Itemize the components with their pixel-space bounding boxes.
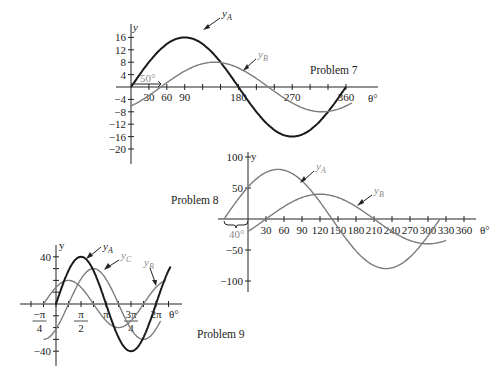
p7-x-tick-label: 360 — [338, 91, 355, 103]
p8-x-tick-label: 30 — [261, 224, 273, 236]
chart-problem-7: 306090180270360 161284−4−8−12−16−20 y θ°… — [109, 7, 378, 164]
p8-x-tick-label: 330 — [438, 224, 455, 236]
p8-y-tick-label: 100 — [227, 151, 244, 163]
p8-y-tick-label: 50 — [232, 182, 244, 194]
p7-y-tick-label: −16 — [109, 131, 127, 143]
p7-yA-arrowhead-icon — [203, 24, 210, 30]
p8-title: Problem 8 — [171, 194, 219, 206]
p9-title: Problem 9 — [197, 328, 245, 340]
p7-y-tick-label: −8 — [114, 106, 126, 118]
p7-theta-label: θ° — [368, 92, 378, 104]
p7-x-tick-label: 270 — [284, 91, 301, 103]
p7-y-tick-label: 8 — [121, 56, 127, 68]
p8-x-tick-label: 150 — [330, 224, 347, 236]
p7-yA-label: yA — [221, 7, 232, 22]
p9-x-tick-label-numerator: π — [78, 308, 84, 320]
p7-y-label: y — [132, 21, 138, 33]
p8-x-tick-label: 270 — [402, 224, 419, 236]
p7-y-tick-label: 4 — [121, 69, 127, 81]
p7-title: Problem 7 — [310, 64, 358, 76]
p7-angle-annotation: 50° — [140, 72, 155, 84]
p8-yA-label: yA — [315, 160, 326, 175]
p9-y-label: y — [59, 239, 65, 251]
p9-x-tick-label-numerator: −π — [34, 308, 46, 320]
p9-yA-label: yA — [102, 240, 113, 255]
p8-y-tick-label: −100 — [220, 275, 243, 287]
p9-theta-label: θ° — [169, 308, 179, 320]
p9-yC-arrowhead-icon — [104, 263, 111, 270]
p7-y-tick-label: 16 — [115, 31, 127, 43]
p9-x-tick-label-denominator: 4 — [37, 322, 43, 334]
p8-x-tick-label: 210 — [366, 224, 383, 236]
p8-x-tick-label: 90 — [297, 224, 309, 236]
chart-problem-9: −π4π2π3π42π 40−40 y θ° yA yC yB Problem … — [20, 239, 245, 366]
figure-canvas: 306090180270360 161284−4−8−12−16−20 y θ°… — [0, 0, 504, 383]
p8-x-tick-label: 360 — [456, 224, 473, 236]
p7-x-tick-label: 90 — [179, 91, 191, 103]
p7-y-tick-label: −4 — [114, 93, 126, 105]
p7-y-ticks: 161284−4−8−12−16−20 — [109, 31, 134, 155]
p7-yB-arrowhead-icon — [243, 64, 249, 71]
p8-angle-brace — [224, 221, 248, 228]
p8-yB-label: yB — [373, 184, 384, 199]
p8-y-label: y — [251, 150, 257, 162]
p8-yA-pointer — [304, 171, 314, 180]
p8-theta-label: θ° — [480, 224, 490, 236]
p8-x-tick-label: 240 — [384, 224, 401, 236]
p9-x-tick-label-numerator: 3π — [125, 308, 137, 320]
p8-x-tick-label: 300 — [420, 224, 437, 236]
p7-y-tick-label: 12 — [115, 44, 126, 56]
p9-yA-arrowhead-icon — [86, 252, 93, 259]
p8-yB-arrowhead-icon — [357, 199, 364, 206]
p8-x-tick-label: 60 — [279, 224, 291, 236]
p8-x-tick-label: 180 — [348, 224, 365, 236]
p9-x-tick-label-denominator: 2 — [78, 322, 84, 334]
p7-yB-label: yB — [257, 48, 268, 63]
p7-y-tick-label: −12 — [109, 118, 126, 130]
p9-yB-arrowhead-icon — [152, 280, 157, 286]
p9-y-tick-label: −40 — [34, 345, 52, 357]
chart-problem-8: 306090120150180210240270300330360 10050−… — [171, 150, 490, 292]
p9-yB-label: yB — [143, 256, 154, 271]
p9-yC-label: yC — [120, 249, 132, 264]
p8-y-tick-label: −50 — [226, 244, 244, 256]
p7-x-tick-label: 60 — [161, 91, 173, 103]
p7-y-tick-label: −20 — [109, 143, 127, 155]
p8-angle-annotation: 40° — [229, 228, 244, 240]
p9-y-tick-label: 40 — [40, 251, 52, 263]
p8-x-tick-label: 120 — [312, 224, 329, 236]
